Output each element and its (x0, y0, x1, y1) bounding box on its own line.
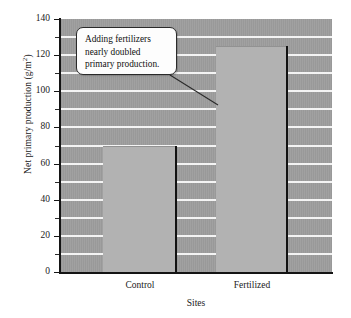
gridline (60, 181, 332, 183)
y-tick-major (54, 127, 60, 128)
callout-text: Adding fertilizersnearly doubledprimary … (85, 33, 170, 71)
y-tick-major (54, 55, 60, 56)
y-tick-minor (55, 182, 59, 183)
gridline (60, 108, 332, 110)
y-tick-label: 80 (20, 122, 50, 132)
y-tick-major (54, 91, 60, 92)
y-tick-label: 60 (20, 159, 50, 169)
y-axis-title-text: Net primary production (g/m (23, 61, 33, 174)
y-tick-major (54, 200, 60, 201)
y-tick-label: 140 (20, 14, 50, 24)
gridline (60, 126, 332, 128)
y-tick-major (54, 19, 60, 20)
y-tick-minor (55, 73, 59, 74)
y-tick-minor (55, 37, 59, 38)
x-axis-title: Sites (60, 298, 332, 308)
x-tick-label-fertilized: Fertilized (207, 280, 297, 290)
gridline (60, 90, 332, 92)
gridline (60, 253, 332, 255)
y-tick-major (54, 164, 60, 165)
y-tick-label: 120 (20, 50, 50, 60)
y-tick-major (54, 236, 60, 237)
y-axis-line (59, 18, 61, 273)
y-tick-minor (55, 146, 59, 147)
y-tick-minor (55, 109, 59, 110)
y-tick-minor (55, 254, 59, 255)
bar-chart-figure: Net primary production (g/m2) 0204060801… (0, 0, 351, 318)
gridline (60, 163, 332, 165)
y-tick-label: 40 (20, 195, 50, 205)
y-tick-label: 20 (20, 231, 50, 241)
bar-fertilized (216, 46, 288, 272)
gridline (60, 145, 332, 147)
y-tick-label: 100 (20, 86, 50, 96)
callout-annotation: Adding fertilizersnearly doubledprimary … (76, 27, 177, 75)
gridline (60, 217, 332, 219)
gridline (60, 235, 332, 237)
x-axis-line (59, 272, 333, 274)
bar-control (103, 146, 177, 273)
y-tick-major (54, 272, 60, 273)
x-tick-label-control: Control (95, 280, 185, 290)
y-tick-minor (55, 218, 59, 219)
gridline (60, 199, 332, 201)
y-tick-label: 0 (20, 267, 50, 277)
